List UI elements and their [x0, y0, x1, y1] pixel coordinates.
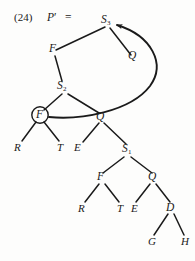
edge-q-d: [156, 184, 170, 202]
edge-d-g: [154, 214, 168, 235]
leaf-t-2: T: [117, 203, 123, 214]
node-s1: S1: [122, 143, 132, 156]
equation-operator: =: [65, 12, 72, 24]
prime-mark: ′: [54, 11, 57, 23]
edge-f-t1: [44, 122, 59, 141]
node-s2: S2: [57, 80, 67, 93]
leaf-h: H: [181, 236, 189, 247]
movement-arrow: [49, 25, 157, 118]
edge-q-e2: [136, 184, 150, 202]
equation-lhs: P′: [47, 12, 57, 24]
edge-f-r1: [22, 122, 36, 141]
leaf-r-1: R: [14, 142, 21, 153]
node-f-circled: F: [36, 109, 43, 121]
edge-q-s1: [104, 123, 126, 144]
edge-s2-q: [68, 94, 99, 113]
node-f-upper: F: [49, 43, 56, 55]
node-q-lower: Q: [148, 171, 156, 183]
edge-s3-f: [56, 27, 105, 50]
edge-f-t2: [105, 184, 119, 202]
node-d: D: [166, 202, 174, 214]
edge-f-s2: [55, 56, 62, 81]
edge-s2-fcircled: [44, 94, 62, 110]
edge-s1-f: [103, 157, 124, 173]
leaf-t-1: T: [57, 142, 63, 153]
edge-d-h: [174, 214, 184, 235]
leaf-r-2: R: [78, 203, 85, 214]
tree-diagram-figure: (24) P′ = S3 F Q S2 F Q R T E S1 F Q R T…: [0, 0, 195, 261]
edge-q-e1: [83, 123, 99, 142]
leaf-e-1: E: [74, 142, 81, 153]
edge-f-r2: [85, 184, 99, 202]
node-f-lower: F: [97, 171, 104, 183]
leaf-e-2: E: [131, 203, 138, 214]
node-s3: S3: [101, 14, 111, 27]
node-q-upper-right: Q: [128, 50, 136, 62]
equation-number: (24): [14, 12, 32, 23]
leaf-g: G: [148, 236, 156, 247]
tree-edges-canvas: [0, 0, 195, 261]
node-q-upper: Q: [96, 111, 104, 123]
